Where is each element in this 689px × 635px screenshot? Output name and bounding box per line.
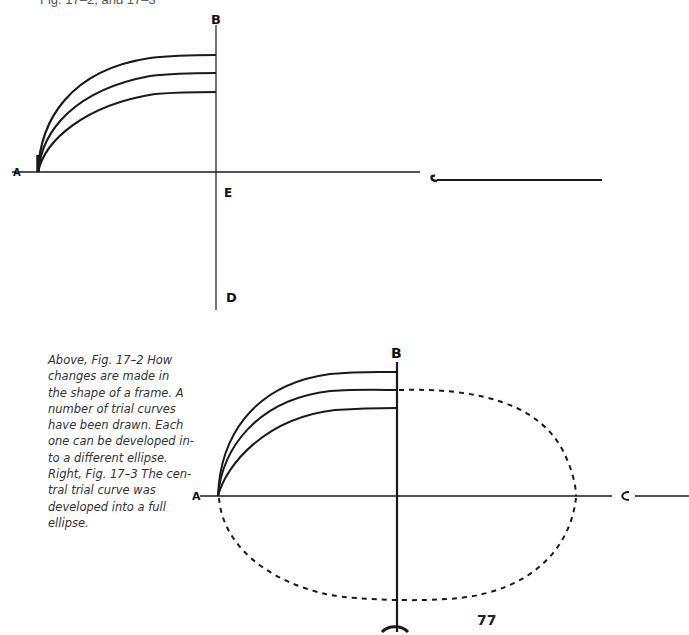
caption-line: tral trial curve was bbox=[48, 482, 208, 498]
caption-line: number of trial curves bbox=[48, 401, 208, 417]
caption-line: changes are made in bbox=[48, 368, 208, 384]
bottom-diagram bbox=[200, 362, 689, 632]
caption-line: developed into a full bbox=[48, 499, 208, 515]
label-d-top: D bbox=[226, 290, 237, 305]
caption-line: Right, Fig. 17–3 The cen- bbox=[48, 466, 208, 482]
label-b-top: B bbox=[211, 12, 221, 27]
caption-line: ellipse. bbox=[48, 515, 208, 531]
top-trial-curve-2 bbox=[38, 73, 216, 172]
label-e-top: E bbox=[224, 186, 232, 200]
top-trial-curve-3 bbox=[38, 92, 216, 172]
top-diagram bbox=[12, 25, 602, 310]
bottom-trial-curve-2 bbox=[218, 390, 397, 496]
caption-line: Above, Fig. 17–2 How bbox=[48, 352, 208, 368]
c-label-glyph-bottom bbox=[622, 492, 629, 500]
caption-line: to a different ellipse. bbox=[48, 450, 208, 466]
caption-line: the shape of a frame. A bbox=[48, 385, 208, 401]
ellipse-upper-right-dashed bbox=[399, 390, 576, 496]
figure-17-2-top-diagram: B A E D B A bbox=[0, 0, 689, 635]
label-b-bottom: B bbox=[391, 345, 402, 361]
d-label-glyph-bottom bbox=[382, 627, 408, 632]
page-number: 77 bbox=[477, 612, 496, 628]
figure-caption: Above, Fig. 17–2 How changes are made in… bbox=[48, 352, 208, 531]
caption-line: have been drawn. Each bbox=[48, 417, 208, 433]
label-a-top: A bbox=[13, 167, 21, 178]
bottom-trial-curve-3 bbox=[218, 408, 397, 496]
caption-line: one can be developed in- bbox=[48, 433, 208, 449]
c-label-glyph-top bbox=[431, 176, 437, 181]
